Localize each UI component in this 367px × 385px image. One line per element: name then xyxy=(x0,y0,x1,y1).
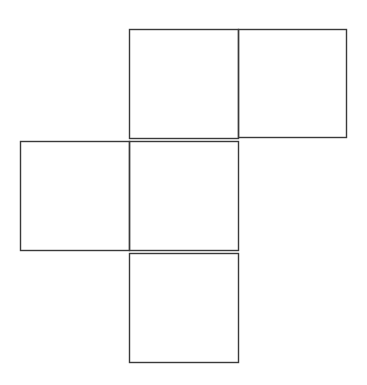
square-bottom xyxy=(130,254,239,363)
square-middle-center xyxy=(130,142,239,251)
square-top-right xyxy=(239,30,347,138)
square-top-left xyxy=(130,30,239,139)
cube-net-diagram xyxy=(0,0,367,385)
square-middle-left xyxy=(21,142,130,251)
